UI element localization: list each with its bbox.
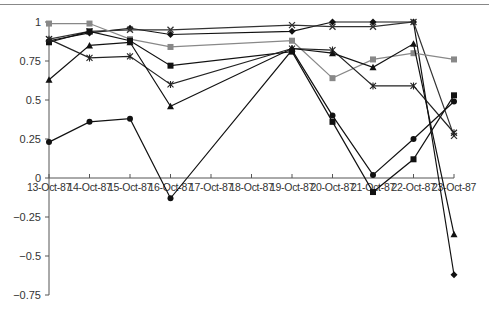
data-point-square-marker [451, 56, 457, 62]
x-tick-label: 22-Oct-87 [392, 181, 436, 193]
data-point-triangle-marker [451, 231, 458, 238]
data-point-circle-marker [87, 119, 93, 125]
data-point-circle-marker [330, 113, 336, 119]
series-series-f [46, 39, 458, 237]
y-tick-label: −0.5 [19, 250, 41, 262]
data-point-star-marker [451, 129, 457, 136]
data-point-square-marker [411, 156, 417, 162]
data-point-square-marker [289, 38, 295, 44]
y-axis: 10.750.50.250−0.25−0.5−0.75 [13, 16, 49, 301]
data-point-square-marker [87, 28, 93, 34]
x-tick-label: 18-Oct-87 [230, 181, 274, 193]
data-point-square-marker [370, 56, 376, 62]
data-point-square-marker [87, 21, 93, 27]
y-tick-label: 0.5 [26, 94, 41, 106]
series-series-d [46, 28, 457, 195]
x-tick-label: 14-Oct-87 [68, 181, 112, 193]
data-point-triangle-marker [410, 40, 417, 47]
series-series-c [46, 21, 457, 82]
data-point-square-marker [330, 75, 336, 81]
data-point-diamond-marker [451, 271, 458, 278]
series-series-e [46, 36, 457, 137]
y-tick-label: −0.25 [13, 211, 41, 223]
data-point-circle-marker [451, 99, 457, 105]
data-point-triangle-marker [167, 103, 174, 110]
data-point-circle-marker [370, 172, 376, 178]
y-tick-label: 1 [35, 16, 41, 28]
x-tick-label: 20-Oct-87 [311, 181, 355, 193]
x-tick-label: 15-Oct-87 [108, 181, 152, 193]
data-point-square-marker [370, 189, 376, 195]
y-tick-label: −0.75 [13, 289, 41, 301]
data-point-circle-marker [168, 195, 174, 201]
data-point-circle-marker [127, 116, 133, 122]
data-point-diamond-marker [289, 28, 296, 35]
y-tick-label: 0.25 [20, 133, 41, 145]
y-tick-label: 0.75 [20, 55, 41, 67]
data-point-circle-marker [411, 136, 417, 142]
x-axis: 13-Oct-8714-Oct-8715-Oct-8716-Oct-8717-O… [27, 174, 476, 193]
x-tick-label: 17-Oct-87 [189, 181, 233, 193]
line-chart: 10.750.50.250−0.25−0.5−0.7513-Oct-8714-O… [0, 0, 489, 311]
data-point-square-marker [451, 92, 457, 98]
x-tick-label: 16-Oct-87 [149, 181, 193, 193]
data-point-circle-marker [289, 47, 295, 53]
x-tick-label: 13-Oct-87 [27, 181, 71, 193]
data-point-square-marker [168, 44, 174, 50]
data-point-square-marker [46, 21, 52, 27]
x-tick-label: 19-Oct-87 [270, 181, 314, 193]
data-point-square-marker [330, 119, 336, 125]
data-point-square-marker [168, 63, 174, 69]
data-point-circle-marker [46, 139, 52, 145]
